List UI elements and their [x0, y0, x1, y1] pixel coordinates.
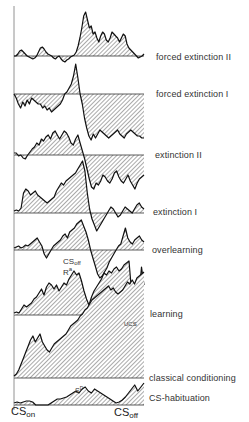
- axis-label-cs-off: CSoff: [114, 406, 138, 420]
- label-forced-extinction-1: forced extinction I: [156, 89, 228, 99]
- label-forced-extinction-2: forced extinction II: [156, 52, 231, 62]
- label-overlearning: overlearning: [152, 245, 203, 255]
- axis-label-cs-on: CSon: [11, 405, 35, 419]
- trace-area-1: [14, 64, 144, 140]
- trace-area-0: [14, 12, 144, 62]
- label-extinction-2: extinction II: [155, 150, 202, 160]
- annotation-ucs: UCS: [124, 321, 137, 327]
- label-extinction-1: extinction I: [153, 207, 197, 217]
- behavioral-traces-chart: [0, 0, 249, 422]
- annotation-sd: SD: [75, 385, 83, 394]
- annotation-cs-off: CSoff: [63, 257, 81, 266]
- label-cs-habituation: CS-habituation: [149, 393, 210, 403]
- traces-group: [14, 12, 144, 405]
- label-learning: learning: [150, 309, 183, 319]
- label-classical-conditioning: classical conditioning: [149, 373, 236, 383]
- annotation-ra: Ra: [63, 266, 72, 277]
